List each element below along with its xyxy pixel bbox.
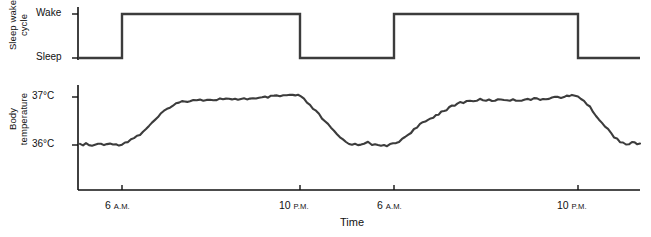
circadian-rhythm-figure: Sleep wake cycle Body temperature Wake S… xyxy=(0,0,651,237)
chart-plot-area xyxy=(0,0,651,237)
body-temperature-series xyxy=(80,95,640,147)
sleep-wake-series xyxy=(78,14,640,58)
axes-group xyxy=(72,7,640,190)
